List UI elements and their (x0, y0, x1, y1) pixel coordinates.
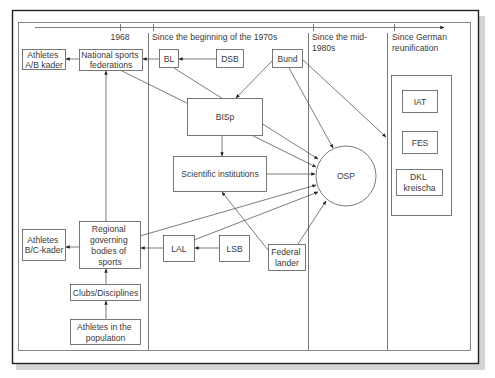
node-bisp: BISp (188, 99, 263, 136)
node-lsb: LSB (220, 236, 250, 262)
svg-text:BISp: BISp (216, 112, 235, 122)
svg-text:Athletes B/C-kader: Athletes B/C-kader (25, 235, 64, 256)
svg-text:IAT: IAT (414, 97, 427, 107)
svg-text:Federal lander: Federal lander (271, 247, 303, 268)
sports-system-diagram: 1968 Since the beginning of the 1970s Si… (0, 0, 495, 378)
node-lal: LAL (164, 236, 195, 262)
svg-text:LAL: LAL (171, 244, 187, 254)
node-athletes-bc-kader: Athletes B/C-kader (23, 230, 66, 261)
node-clubs-disciplines: Clubs/Disciplines (71, 285, 141, 301)
node-bund: Bund (273, 50, 303, 68)
node-bl: BL (160, 50, 179, 68)
svg-text:DSB: DSB (221, 54, 239, 64)
node-dkl-kreischa: DKL kreischa (397, 170, 443, 196)
node-osp: OSP (316, 146, 376, 206)
node-regional-governing-bodies: Regional governing bodies of sports (80, 222, 141, 269)
node-athletes-ab-kader: Athletes A/B kader (23, 50, 66, 70)
svg-text:National sports federati: National sports federations (81, 50, 141, 70)
node-federal-lander: Federal lander (269, 245, 306, 271)
period-label-1970s: Since the beginning of the 1970s (152, 32, 277, 42)
svg-text:FES: FES (412, 138, 429, 148)
svg-text:OSP: OSP (337, 171, 355, 181)
node-dsb: DSB (217, 50, 244, 68)
period-label-1968: 1968 (110, 32, 129, 42)
node-athletes-in-population: Athletes in the population (71, 320, 141, 345)
node-national-sports-federations: National sports federations (80, 50, 143, 71)
node-scientific-institutions: Scientific institutions (174, 157, 267, 192)
frame-shadow-bottom (16, 364, 484, 370)
svg-text:LSB: LSB (226, 244, 243, 254)
svg-text:Scientific institutions: Scientific institutions (181, 169, 258, 179)
svg-text:Clubs/Disciplines: Clubs/Disciplines (73, 288, 138, 298)
node-fes: FES (403, 132, 438, 154)
node-iat: IAT (403, 91, 438, 113)
svg-text:Athletes A/B kader: Athletes A/B kader (25, 50, 63, 70)
svg-text:Bund: Bund (277, 54, 297, 64)
svg-text:BL: BL (164, 54, 175, 64)
